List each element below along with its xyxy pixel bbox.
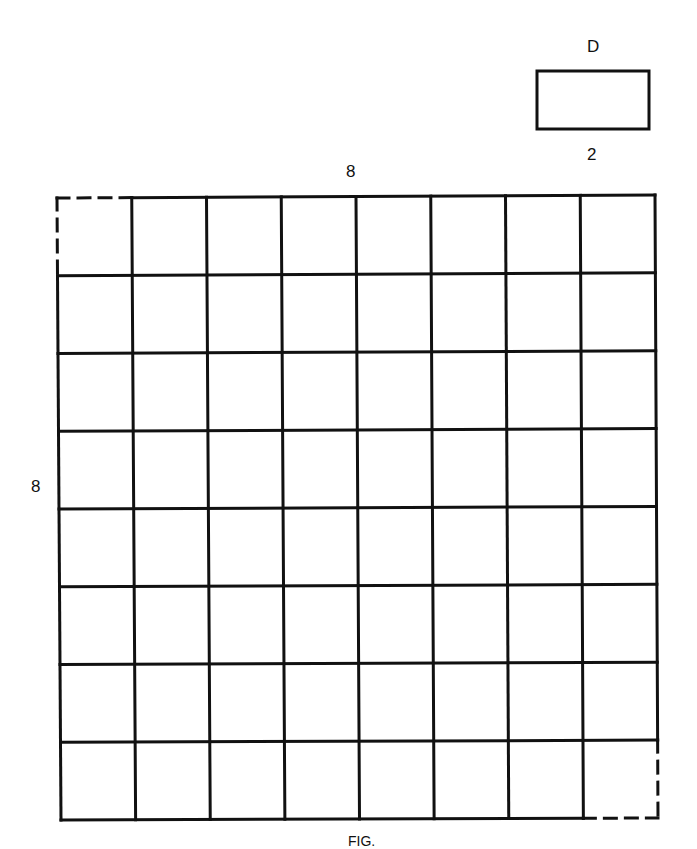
grid-line-horizontal <box>132 195 655 198</box>
grid-line-vertical <box>132 198 136 820</box>
grid-line-horizontal <box>61 818 583 820</box>
grid-line-vertical <box>281 197 285 819</box>
removed-corner-edge <box>57 198 58 276</box>
grid-line-vertical <box>207 197 211 819</box>
domino-rectangle <box>537 71 649 129</box>
grid-line-vertical <box>431 196 434 819</box>
grid-line-vertical <box>506 196 509 819</box>
grid-line-vertical <box>58 276 62 820</box>
grid-line-vertical <box>356 197 360 820</box>
grid-line-vertical <box>655 195 658 740</box>
grid-line-vertical <box>580 195 583 818</box>
